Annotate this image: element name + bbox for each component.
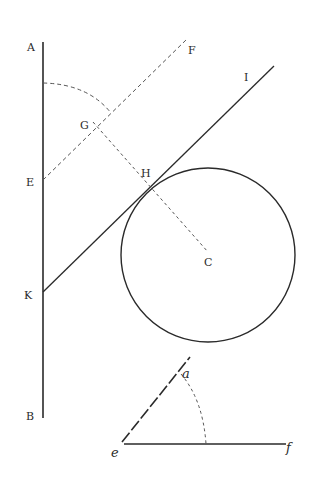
label-e: e <box>111 445 119 460</box>
label-a: a <box>182 366 190 381</box>
label-K: K <box>24 289 33 302</box>
label-I: I <box>244 71 248 84</box>
line-EF <box>43 40 186 180</box>
line-KI <box>43 66 274 292</box>
label-G: G <box>80 119 89 132</box>
label-E: E <box>26 176 34 189</box>
label-F: F <box>188 44 196 57</box>
arc-a-f <box>181 374 206 444</box>
line-GC <box>93 122 208 252</box>
circle-C <box>121 168 295 342</box>
label-H: H <box>141 167 151 180</box>
line-ea <box>122 357 190 442</box>
geometry-figure: A F I G E H C K B a e f <box>0 0 329 478</box>
label-B: B <box>26 410 34 423</box>
label-C: C <box>204 256 212 269</box>
arc-A-G <box>43 83 111 113</box>
label-f: f <box>285 440 293 455</box>
label-A: A <box>26 41 36 54</box>
